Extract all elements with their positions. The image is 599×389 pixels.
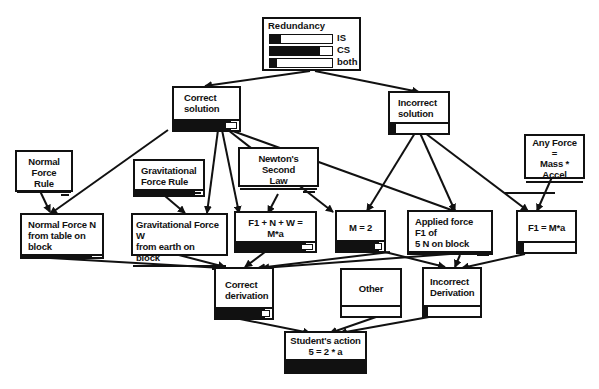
node-label: Incorrect solution <box>390 93 448 122</box>
probability-bar <box>342 305 400 316</box>
legend-label-cs: CS <box>337 44 350 55</box>
node-gravitational-force-rule[interactable]: Gravitational Force Rule <box>133 159 205 197</box>
node-normal-force-rule[interactable]: Normal Force Rule <box>15 150 73 192</box>
node-label: Student's action 5 = 2 * a <box>286 333 365 359</box>
probability-bar <box>216 307 272 318</box>
node-incorrect-derivation[interactable]: Incorrect Derivation <box>422 267 482 318</box>
node-label: F1 = M*a <box>518 212 575 241</box>
legend-bar-both <box>269 58 333 68</box>
probability-bar <box>518 241 575 252</box>
node-applied-force-f1[interactable]: Applied force F1 of 5 N on block <box>407 210 493 255</box>
node-label: Correct solution <box>174 88 239 119</box>
node-label: Correct derivation <box>216 269 272 307</box>
node-label: Other <box>342 270 400 305</box>
node-label: Newton's Second Law <box>240 149 317 188</box>
legend-label-both: both <box>337 56 358 67</box>
legend-bar-is <box>269 34 333 44</box>
probability-bar <box>133 265 226 267</box>
probability-bar <box>240 188 317 190</box>
node-incorrect-solution[interactable]: Incorrect solution <box>388 91 450 135</box>
probability-bar <box>409 251 491 253</box>
node-label: F1 + N + W = M*a <box>236 213 315 241</box>
node-label: Gravitational Force W from earth on bloc… <box>133 215 226 265</box>
node-correct-solution[interactable]: Correct solution <box>172 86 241 132</box>
node-gravitational-force-w[interactable]: Gravitational Force W from earth on bloc… <box>131 213 228 256</box>
node-label: Normal Force Rule <box>17 152 71 191</box>
legend-label-is: IS <box>337 32 346 43</box>
node-label: M = 2 <box>337 212 384 240</box>
legend-title: Redundancy <box>268 20 325 31</box>
node-any-force[interactable]: Any Force = Mass * Accel <box>524 134 585 179</box>
node-m-equals-2[interactable]: M = 2 <box>335 210 386 253</box>
node-correct-derivation[interactable]: Correct derivation <box>214 267 274 320</box>
node-other[interactable]: Other <box>340 268 402 318</box>
probability-bar <box>390 122 448 133</box>
node-label: Gravitational Force Rule <box>135 161 203 189</box>
node-students-action[interactable]: Student's action 5 = 2 * a <box>284 331 367 374</box>
node-f1-equals-ma[interactable]: F1 = M*a <box>516 210 577 254</box>
probability-bar <box>526 181 583 183</box>
node-normal-force-n[interactable]: Normal Force N from table on block <box>20 213 104 259</box>
node-label: Incorrect Derivation <box>424 269 480 305</box>
legend-bar-cs <box>269 46 333 56</box>
probability-bar <box>236 241 315 251</box>
node-label: Any Force = Mass * Accel <box>526 136 583 181</box>
node-label: Normal Force N from table on block <box>22 215 102 254</box>
probability-bar <box>337 240 384 251</box>
probability-bar <box>135 189 203 195</box>
redundancy-legend: Redundancy IS CS both <box>262 17 361 71</box>
probability-bar <box>424 305 480 316</box>
node-label: Applied force F1 of 5 N on block <box>409 212 491 251</box>
probability-bar <box>17 191 71 193</box>
probability-bar <box>22 254 102 257</box>
probability-bar <box>286 359 365 372</box>
node-newtons-second-law[interactable]: Newton's Second Law <box>238 147 319 187</box>
node-f1-n-w-equation[interactable]: F1 + N + W = M*a <box>234 211 317 253</box>
probability-bar <box>174 119 239 130</box>
